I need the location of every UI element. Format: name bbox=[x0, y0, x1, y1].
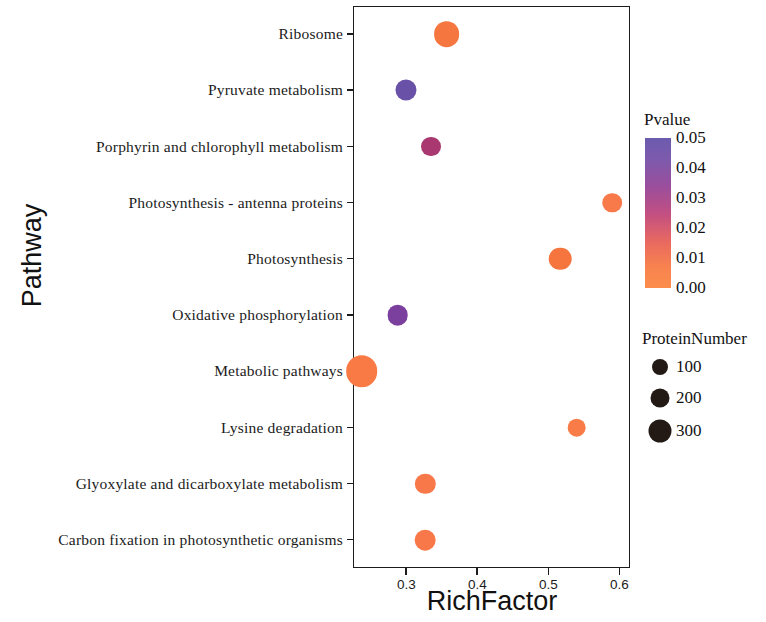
proteinnumber-legend-label: 100 bbox=[676, 357, 702, 377]
x-axis-tick-mark bbox=[619, 568, 621, 575]
y-axis-tick-label: Photosynthesis - antenna proteins bbox=[0, 194, 343, 212]
y-axis-tick-mark bbox=[347, 202, 353, 204]
x-axis-tick-label: 0.4 bbox=[452, 577, 502, 592]
data-point bbox=[567, 418, 586, 437]
pvalue-legend-label: 0.04 bbox=[676, 158, 706, 178]
data-point bbox=[602, 193, 622, 213]
pvalue-legend-title: Pvalue bbox=[644, 110, 690, 130]
y-axis-tick-mark bbox=[347, 483, 353, 485]
proteinnumber-legend-dot bbox=[649, 420, 672, 443]
data-point bbox=[415, 530, 436, 551]
y-axis-tick-mark bbox=[347, 539, 353, 541]
y-axis-tick-mark bbox=[347, 89, 353, 91]
pvalue-legend-label: 0.00 bbox=[676, 278, 706, 298]
bubble-plot-figure: Pathway RichFactor RibosomePyruvate meta… bbox=[0, 0, 766, 622]
y-axis-tick-label: Pyruvate metabolism bbox=[0, 81, 343, 99]
y-axis-tick-label: Metabolic pathways bbox=[0, 362, 343, 380]
y-axis-tick-label: Glyoxylate and dicarboxylate metabolism bbox=[0, 475, 343, 493]
data-point bbox=[549, 248, 572, 271]
x-axis-tick-label: 0.3 bbox=[381, 577, 431, 592]
pvalue-colorbar bbox=[645, 138, 671, 288]
proteinnumber-legend-title: ProteinNumber bbox=[642, 329, 747, 349]
proteinnumber-legend-dot bbox=[652, 359, 668, 375]
x-axis-tick-mark bbox=[476, 568, 478, 575]
proteinnumber-legend-label: 200 bbox=[676, 388, 702, 408]
y-axis-tick-label: Oxidative phosphorylation bbox=[0, 306, 343, 324]
y-axis-tick-mark bbox=[347, 146, 353, 148]
plot-panel bbox=[353, 6, 630, 568]
y-axis-tick-label: Lysine degradation bbox=[0, 419, 343, 437]
pvalue-legend-label: 0.05 bbox=[676, 128, 706, 148]
y-axis-tick-mark bbox=[347, 314, 353, 316]
proteinnumber-legend-dot bbox=[651, 389, 670, 408]
data-point bbox=[421, 137, 441, 157]
x-axis-tick-label: 0.5 bbox=[523, 577, 573, 592]
y-axis-tick-label: Carbon fixation in photosynthetic organi… bbox=[0, 531, 343, 549]
pvalue-legend-label: 0.01 bbox=[676, 248, 706, 268]
y-axis-tick-label: Porphyrin and chlorophyll metabolism bbox=[0, 138, 343, 156]
x-axis-tick-mark bbox=[405, 568, 407, 575]
x-axis-tick-mark bbox=[548, 568, 550, 575]
data-point bbox=[434, 21, 460, 47]
pvalue-legend-label: 0.03 bbox=[676, 188, 706, 208]
y-axis-tick-mark bbox=[347, 427, 353, 429]
y-axis-tick-mark bbox=[347, 33, 353, 35]
data-point bbox=[387, 305, 408, 326]
data-point bbox=[396, 80, 417, 101]
proteinnumber-legend-label: 300 bbox=[676, 421, 702, 441]
data-point bbox=[346, 356, 378, 388]
y-axis-tick-mark bbox=[347, 258, 353, 260]
pvalue-legend-label: 0.02 bbox=[676, 218, 706, 238]
y-axis-tick-label: Photosynthesis bbox=[0, 250, 343, 268]
x-axis-tick-label: 0.6 bbox=[594, 577, 644, 592]
y-axis-tick-label: Ribosome bbox=[0, 25, 343, 43]
